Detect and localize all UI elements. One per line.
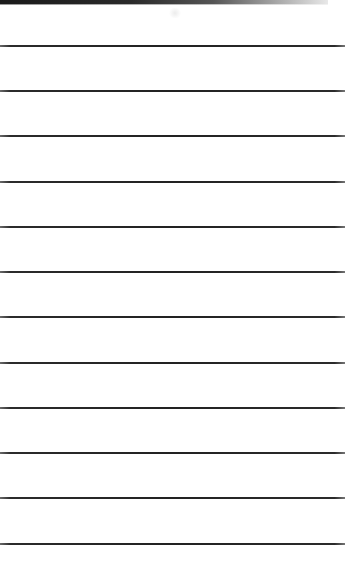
ruled-line: [0, 135, 345, 137]
ruled-line: [0, 90, 345, 92]
faint-bleed-mark: [168, 8, 182, 18]
paper-top-edge-shadow: [0, 0, 328, 4]
ruled-line: [0, 271, 345, 273]
ruled-line: [0, 407, 345, 409]
ruled-line: [0, 543, 345, 545]
ruled-line: [0, 181, 345, 183]
ruled-line: [0, 362, 345, 364]
ruled-line: [0, 497, 345, 499]
ruled-line: [0, 452, 345, 454]
ruled-line: [0, 226, 345, 228]
ruled-line: [0, 316, 345, 318]
ruled-line: [0, 45, 345, 47]
